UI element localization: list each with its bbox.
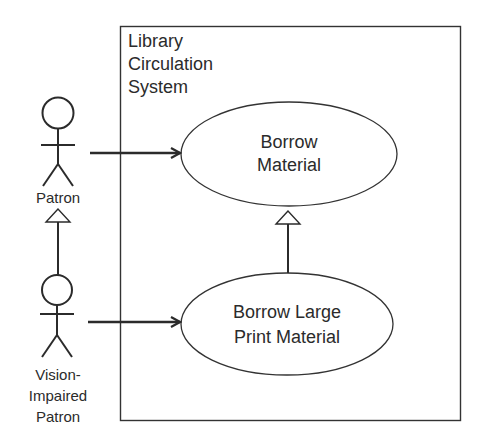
label-line: Borrow — [209, 131, 369, 154]
label-line: Borrow Large — [197, 300, 377, 325]
generalization-actor — [46, 209, 70, 275]
label-line: Material — [209, 154, 369, 177]
system-title: Library Circulation System — [128, 30, 213, 99]
label-line: Print Material — [197, 325, 377, 350]
system-title-line: Library — [128, 30, 213, 53]
label-line: Vision- — [8, 364, 108, 385]
actor-patron-label: Patron — [18, 188, 98, 208]
use-case-borrow-material-label: Borrow Material — [209, 131, 369, 177]
actor-patron-icon[interactable] — [41, 98, 75, 187]
label-line: Patron — [8, 406, 108, 427]
label-line: Impaired — [8, 385, 108, 406]
system-title-line: Circulation — [128, 53, 213, 76]
use-case-borrow-large-print-label: Borrow Large Print Material — [197, 300, 377, 350]
actor-vision-impaired-patron-label: Vision- Impaired Patron — [8, 364, 108, 427]
label-line: Patron — [18, 188, 98, 208]
system-title-line: System — [128, 76, 213, 99]
actor-vision-impaired-patron-icon[interactable] — [40, 275, 74, 357]
generalization-usecase — [276, 211, 300, 273]
